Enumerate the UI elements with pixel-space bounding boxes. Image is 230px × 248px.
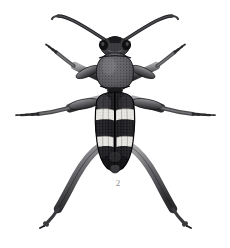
illustration-plate: 2 [0,0,230,248]
figure-number-label: 2 [108,177,128,189]
pronotum [96,53,133,91]
beetle-illustration [0,0,230,248]
